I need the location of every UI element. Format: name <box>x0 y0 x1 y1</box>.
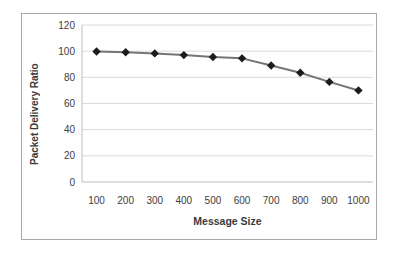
y-tick-label: 20 <box>64 150 76 161</box>
x-tick-label: 300 <box>146 195 163 206</box>
data-point-marker <box>180 51 188 59</box>
x-tick-label: 200 <box>117 195 134 206</box>
x-tick-label: 100 <box>88 195 105 206</box>
data-point-marker <box>267 61 275 69</box>
data-point-marker <box>325 78 333 86</box>
x-tick-label: 500 <box>205 195 222 206</box>
x-axis-title: Message Size <box>82 215 373 227</box>
y-tick-label: 40 <box>64 124 76 135</box>
line-plot: 0204060801001201002003004005006007008009… <box>22 14 376 239</box>
x-tick-label: 400 <box>176 195 193 206</box>
data-point-marker <box>209 53 217 61</box>
chart-frame: 0204060801001201002003004005006007008009… <box>21 13 377 240</box>
data-point-marker <box>296 69 304 77</box>
y-tick-label: 120 <box>58 20 75 31</box>
data-point-marker <box>354 86 362 94</box>
data-point-marker <box>151 49 159 57</box>
y-tick-label: 0 <box>69 177 75 188</box>
x-tick-label: 800 <box>292 195 309 206</box>
data-point-marker <box>92 47 100 55</box>
x-tick-label: 700 <box>263 195 280 206</box>
x-tick-label: 1000 <box>347 195 370 206</box>
y-tick-label: 60 <box>64 98 76 109</box>
x-tick-label: 600 <box>234 195 251 206</box>
y-axis-title: Packet Delivery Ratio <box>27 50 42 178</box>
series-line <box>97 51 359 90</box>
y-tick-label: 80 <box>64 72 76 83</box>
y-tick-label: 100 <box>58 46 75 57</box>
data-point-marker <box>238 54 246 62</box>
chart-figure: 0204060801001201002003004005006007008009… <box>0 0 397 253</box>
data-point-marker <box>121 48 129 56</box>
x-tick-label: 900 <box>321 195 338 206</box>
